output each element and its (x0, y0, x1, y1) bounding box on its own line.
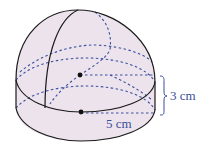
radius-label: 5 cm (106, 116, 132, 132)
solid-diagram (0, 0, 205, 147)
base-center-dot (79, 110, 84, 115)
height-label: 3 cm (170, 88, 196, 104)
height-brace (160, 76, 167, 115)
center-dot (78, 73, 83, 78)
